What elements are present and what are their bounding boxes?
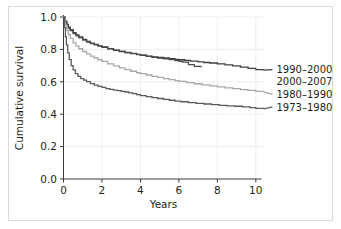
x-tick-label: 10 bbox=[249, 184, 262, 196]
legend-label-1980-1990: 1980–1990 bbox=[277, 89, 333, 100]
legend-label-1973-1980: 1973–1980 bbox=[277, 102, 333, 113]
x-tick-labels: 0246810 bbox=[60, 184, 262, 196]
y-tick-label: 0.2 bbox=[40, 140, 57, 152]
y-tick-label: 0.4 bbox=[40, 108, 57, 120]
legend-label-1990-2000: 1990–2000 bbox=[277, 64, 333, 75]
x-tick-label: 6 bbox=[176, 184, 183, 196]
curve-1973-1980 bbox=[64, 17, 264, 109]
y-axis-title: Cumulative survival bbox=[13, 46, 25, 150]
y-tick-labels: 0.00.20.40.60.81.0 bbox=[40, 11, 57, 185]
y-tick-label: 0.6 bbox=[40, 76, 57, 88]
curve-1980-1990 bbox=[64, 17, 264, 92]
figure-container: 0246810 0.00.20.40.60.81.0 1990–20002000… bbox=[0, 0, 341, 229]
y-tick-label: 0.8 bbox=[40, 43, 57, 55]
legend: 1990–20002000–20071980–19901973–1980 bbox=[277, 64, 333, 112]
axes bbox=[64, 15, 262, 179]
y-tick-label: 1.0 bbox=[40, 11, 57, 23]
legend-leader-1973-1980 bbox=[264, 107, 273, 109]
y-tick-label: 0.0 bbox=[40, 173, 57, 185]
legend-leader-lines bbox=[264, 70, 273, 109]
legend-label-2000-2007: 2000–2007 bbox=[277, 76, 333, 87]
x-tick-label: 4 bbox=[137, 184, 144, 196]
x-tick-label: 2 bbox=[99, 184, 106, 196]
curve-series bbox=[64, 17, 264, 109]
legend-leader-1980-1990 bbox=[264, 92, 273, 94]
x-tick-label: 8 bbox=[214, 184, 221, 196]
x-tick-label: 0 bbox=[60, 184, 67, 196]
x-axis-title: Years bbox=[149, 198, 178, 210]
survival-chart: 0246810 0.00.20.40.60.81.0 1990–20002000… bbox=[0, 0, 341, 229]
